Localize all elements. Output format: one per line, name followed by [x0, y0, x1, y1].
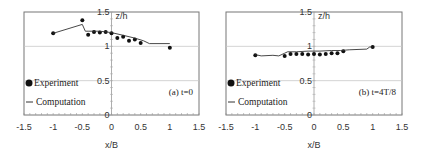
y-tick-label: 0	[104, 110, 109, 120]
y-tick-label: 0.5	[97, 76, 110, 86]
experiment-marker	[294, 52, 298, 56]
x-tick-label: -1.5	[16, 122, 32, 132]
y-axis-title: z/h	[116, 11, 128, 21]
y-tick-label: 0.5	[299, 76, 312, 86]
y-tick-label: 0	[307, 110, 312, 120]
experiment-marker	[318, 53, 322, 57]
x-tick-label: -0.5	[75, 122, 91, 132]
x-tick-label: 1	[370, 122, 375, 132]
experiment-marker	[92, 30, 96, 34]
legend-label: Computation	[238, 97, 288, 107]
experiment-marker	[86, 33, 90, 37]
experiment-marker	[289, 52, 293, 56]
experiment-marker	[324, 52, 328, 56]
x-axis-title: x/B	[307, 140, 320, 150]
legend-label: Computation	[36, 97, 86, 107]
experiment-marker	[139, 41, 143, 45]
experiment-marker	[306, 53, 310, 57]
x-tick-label: 0	[109, 122, 114, 132]
x-tick-label: -1	[49, 122, 57, 132]
experiment-marker	[335, 51, 339, 55]
y-tick-label: 1.5	[97, 7, 110, 17]
chart-svg: 00.511.5z/h-1.5-1-0.500.511.5x/BExperime…	[213, 0, 426, 160]
experiment-marker	[127, 39, 131, 43]
x-tick-label: 0.5	[337, 122, 350, 132]
x-tick-label: 1.5	[396, 122, 409, 132]
legend-marker-icon	[228, 80, 235, 87]
y-axis-title: z/h	[318, 11, 330, 21]
x-axis-title: x/B	[105, 140, 118, 150]
x-tick-label: 1	[167, 122, 172, 132]
chart-panel-a: 00.511.5z/h-1.5-1-0.500.511.5x/BExperime…	[0, 0, 213, 160]
legend-label: Experiment	[236, 78, 281, 88]
x-tick-label: -1.5	[218, 122, 234, 132]
experiment-marker	[330, 51, 334, 55]
y-tick-label: 1	[307, 41, 312, 51]
experiment-marker	[115, 36, 119, 40]
x-tick-label: 0	[311, 122, 316, 132]
x-tick-label: -0.5	[277, 122, 293, 132]
experiment-marker	[312, 52, 316, 56]
panel-label: (b) t=4T/8	[359, 87, 397, 97]
chart-svg: 00.511.5z/h-1.5-1-0.500.511.5x/BExperime…	[0, 0, 213, 160]
experiment-marker	[168, 46, 172, 50]
experiment-marker	[80, 18, 84, 22]
x-tick-label: 0.5	[134, 122, 147, 132]
chart-panel-b: 00.511.5z/h-1.5-1-0.500.511.5x/BExperime…	[213, 0, 426, 160]
x-tick-label: -1	[251, 122, 259, 132]
x-tick-label: 1.5	[193, 122, 206, 132]
experiment-marker	[300, 52, 304, 56]
panel-label: (a) t=0	[169, 87, 194, 97]
legend-label: Experiment	[34, 78, 79, 88]
legend-marker-icon	[26, 80, 33, 87]
y-tick-label: 1	[104, 41, 109, 51]
y-tick-label: 1.5	[299, 7, 312, 17]
experiment-marker	[283, 54, 287, 58]
